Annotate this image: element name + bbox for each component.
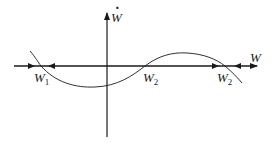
point-label-w2-right-subscript: 2 xyxy=(228,77,233,87)
point-label-w2-middle-subscript: 2 xyxy=(154,77,159,87)
point-label-w1: W1 xyxy=(34,71,49,87)
point-label-w2-middle: W2 xyxy=(143,71,158,87)
x-axis-label: W xyxy=(250,51,261,64)
flow-arrow-right-1 xyxy=(28,63,35,69)
flow-arrow-right-2 xyxy=(212,63,219,69)
point-label-w1-subscript: 1 xyxy=(45,77,50,87)
flow-arrow-left-1 xyxy=(48,63,55,69)
point-label-w2-right-name: W xyxy=(217,70,228,85)
flow-arrow-left-2 xyxy=(234,63,241,69)
rate-curve xyxy=(30,51,242,87)
point-label-w2-middle-name: W xyxy=(143,70,154,85)
point-label-w1-name: W xyxy=(34,70,45,85)
phase-diagram: W · W W1 W2 W2 xyxy=(0,0,271,143)
y-axis-label-dot: · xyxy=(115,2,120,16)
point-label-w2-right: W2 xyxy=(217,71,232,87)
